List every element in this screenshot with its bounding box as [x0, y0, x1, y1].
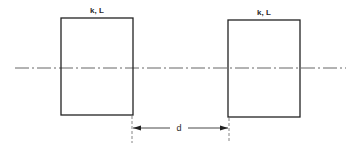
dimension-label: d [176, 123, 181, 133]
element-right: k, L [228, 8, 300, 117]
element-right-label: k, L [257, 8, 271, 17]
element-right-box [228, 20, 300, 117]
element-left-label: k, L [90, 6, 104, 15]
arrowhead-right-icon [220, 126, 228, 131]
element-left-box [61, 18, 133, 115]
element-left: k, L [61, 6, 133, 115]
arrowhead-left-icon [133, 126, 141, 131]
dimension-d: d [133, 123, 228, 133]
diagram-canvas: k, L k, L d [0, 0, 356, 150]
